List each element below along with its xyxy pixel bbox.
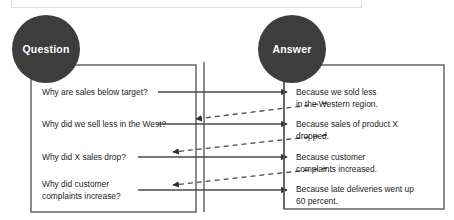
diagram-root: Question Answer Why are sales below targ…: [0, 0, 454, 220]
node-question-label: Question: [22, 44, 69, 55]
node-answer[interactable]: Answer: [258, 15, 326, 83]
node-question[interactable]: Question: [12, 15, 80, 83]
node-answer-label: Answer: [272, 44, 311, 55]
connector-a1-q2: [196, 103, 327, 119]
